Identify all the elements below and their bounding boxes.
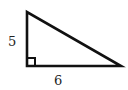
horizontal-leg-label: 6 xyxy=(54,74,62,87)
triangle-shape xyxy=(27,12,121,66)
right-triangle-diagram xyxy=(0,0,128,90)
vertical-leg-label: 5 xyxy=(8,35,16,48)
